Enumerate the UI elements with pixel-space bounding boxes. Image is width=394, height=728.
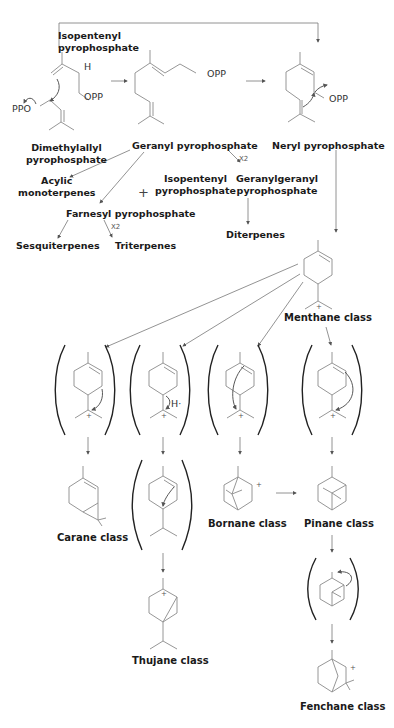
label-farnesyl-pp: Farnesyl pyrophosphate <box>66 208 196 220</box>
label-fenchane-class: Fenchane class <box>300 701 386 713</box>
plus-sign: + <box>138 186 149 199</box>
cation-carane-int: + <box>86 412 92 420</box>
npp-structure <box>286 52 327 122</box>
label-bornane-class: Bornane class <box>208 518 287 530</box>
cation-thujane-int: + <box>161 412 167 420</box>
pathway-diagram <box>0 0 394 728</box>
atom-opp-npp: OPP <box>329 94 348 104</box>
arrow-to-thujane-intermediate <box>183 274 300 346</box>
atom-h-ipp: H <box>84 62 91 72</box>
label-carane-class: Carane class <box>57 532 128 544</box>
label-menthane-class: Menthane class <box>284 312 372 324</box>
x2-triterpenes: X2 <box>111 223 120 231</box>
gpp-structure <box>135 50 196 124</box>
ipp-dmapp-structure <box>24 52 89 130</box>
fenchane-intermediate <box>308 558 359 620</box>
atom-ppo-dmapp: PPO <box>12 104 31 114</box>
atom-opp-gpp: OPP <box>207 69 226 79</box>
thujane-intermediate <box>132 460 192 550</box>
label-dimethylallyl-pp: Dimethylallyl pyrophosphate <box>26 142 107 166</box>
label-acyclic-monoterpenes: Acylic monoterpenes <box>18 175 96 199</box>
thujane-structure <box>149 578 177 649</box>
label-sesquiterpenes: Sesquiterpenes <box>16 240 100 252</box>
label-geranyl-pp: Geranyl pyrophosphate <box>132 140 258 152</box>
label-pinane-class: Pinane class <box>304 518 374 530</box>
intermediate-carane <box>55 345 115 435</box>
cation-menthane: + <box>316 303 322 311</box>
cation-fenchane: + <box>350 664 356 672</box>
atom-opp-ipp: OPP <box>84 92 103 102</box>
cation-bornane-int: + <box>238 412 244 420</box>
carane-structure <box>69 466 106 526</box>
cation-thujane: + <box>161 590 167 598</box>
label-geranylgeranyl-pp: Geranylgeranyl pyrophosphate <box>236 173 318 197</box>
intermediate-pinane <box>302 345 362 435</box>
fenchane-structure <box>318 650 354 692</box>
label-isopentenyl-pp-mid: Isopentenyl pyrophosphate <box>155 173 236 197</box>
cation-pinane-int: + <box>330 412 336 420</box>
label-thujane-class: Thujane class <box>132 655 209 667</box>
arrow-to-pinane-intermediate <box>326 327 331 345</box>
atom-h-thujane: H· <box>171 399 181 409</box>
label-diterpenes: Diterpenes <box>226 229 285 241</box>
x2-ggpp: X2 <box>239 155 248 163</box>
intermediate-thujane <box>130 345 190 435</box>
bornane-structure <box>224 466 252 510</box>
intermediate-bornane <box>208 345 268 435</box>
cation-bornane: + <box>256 481 262 489</box>
arrow-to-sesquiterpenes <box>58 220 68 238</box>
label-triterpenes: Triterpenes <box>115 240 176 252</box>
pinane-structure <box>318 466 346 510</box>
menthane-structure <box>304 240 332 309</box>
label-isopentenyl-pp-top: Isopentenyl pyrophosphate <box>58 30 139 54</box>
label-neryl-pp: Neryl pyrophosphate <box>272 140 385 152</box>
